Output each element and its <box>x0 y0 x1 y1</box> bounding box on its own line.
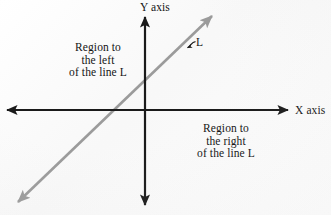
y-axis-label: Y axis <box>140 1 170 14</box>
right-region-label: Region to the right of the line L <box>180 122 272 160</box>
leader-arrow <box>188 42 196 48</box>
coordinate-plane-figure: Y axis X axis L Region to the left of th… <box>0 0 331 215</box>
left-region-label: Region to the left of the line L <box>56 41 140 79</box>
line-l-label: L <box>196 36 203 49</box>
diagram-canvas <box>0 0 331 215</box>
line-label-leader <box>188 42 196 48</box>
bottom-edge-artifact <box>3 206 9 215</box>
x-axis-label: X axis <box>295 104 325 117</box>
